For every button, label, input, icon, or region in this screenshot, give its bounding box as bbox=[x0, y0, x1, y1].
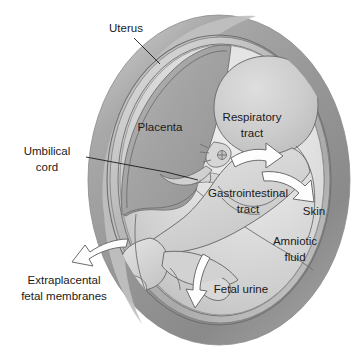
label-gastrointestinal-tract-line2: tract bbox=[237, 203, 260, 215]
label-gastrointestinal-tract-line1: Gastrointestinal bbox=[208, 187, 288, 199]
label-respiratory-tract-line1: Respiratory bbox=[223, 111, 282, 123]
label-extraplacental-line2: fetal membranes bbox=[21, 290, 107, 302]
label-umbilical-cord-line2: cord bbox=[36, 161, 58, 173]
fetal-compartments-diagram: Uterus Placenta Respiratory tract Umbili… bbox=[0, 0, 357, 357]
label-placenta: Placenta bbox=[138, 121, 183, 133]
label-extraplacental-line1: Extraplacental bbox=[28, 274, 101, 286]
label-umbilical-cord-line1: Umbilical bbox=[24, 145, 71, 157]
label-skin: Skin bbox=[303, 205, 325, 217]
label-extraplacental-fetal-membranes: Extraplacental fetal membranes bbox=[21, 274, 107, 302]
label-amniotic-fluid-line1: Amniotic bbox=[273, 235, 317, 247]
label-uterus: Uterus bbox=[109, 22, 143, 34]
label-fetal-urine: Fetal urine bbox=[214, 283, 268, 295]
label-amniotic-fluid-line2: fluid bbox=[284, 251, 305, 263]
label-umbilical-cord: Umbilical cord bbox=[24, 145, 71, 173]
label-respiratory-tract-line2: tract bbox=[241, 127, 264, 139]
diagram-canvas: Uterus Placenta Respiratory tract Umbili… bbox=[0, 0, 357, 357]
